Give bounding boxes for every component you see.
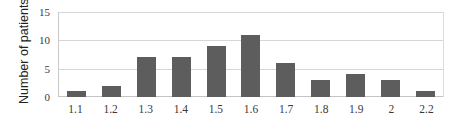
bar[interactable] (137, 57, 156, 97)
y-tick-label: 0 (45, 92, 51, 102)
bar-slot (408, 12, 443, 97)
bar-chart: Number of patients 051015 1.11.21.31.41.… (0, 0, 451, 133)
bar-slot (373, 12, 408, 97)
plot-area (58, 12, 444, 97)
bar[interactable] (416, 91, 435, 97)
bar[interactable] (381, 80, 400, 97)
y-tick-label: 15 (39, 7, 50, 17)
bar-slot (268, 12, 303, 97)
bar[interactable] (102, 86, 121, 97)
bar[interactable] (311, 80, 330, 97)
x-tick-label: 2 (374, 100, 409, 120)
bar-slot (164, 12, 199, 97)
x-tick-label: 1.1 (58, 100, 93, 120)
bar[interactable] (241, 35, 260, 97)
x-tick-label: 1.6 (233, 100, 268, 120)
bar[interactable] (276, 63, 295, 97)
y-axis-tick-labels: 051015 (28, 12, 54, 97)
x-tick-label: 1.8 (304, 100, 339, 120)
bar-slot (338, 12, 373, 97)
bar-slot (59, 12, 94, 97)
x-tick-label: 1.5 (198, 100, 233, 120)
x-tick-label: 1.2 (93, 100, 128, 120)
bar-slot (234, 12, 269, 97)
x-tick-label: 1.4 (163, 100, 198, 120)
bars-container (59, 12, 443, 97)
x-axis-tick-labels: 1.11.21.31.41.51.61.71.81.922.2 (58, 100, 444, 120)
bar[interactable] (346, 74, 365, 97)
bar[interactable] (207, 46, 226, 97)
y-tick-label: 10 (39, 35, 50, 45)
bar[interactable] (67, 91, 86, 97)
x-tick-label: 1.3 (128, 100, 163, 120)
bar-slot (129, 12, 164, 97)
y-tick-label: 5 (45, 64, 51, 74)
bar[interactable] (172, 57, 191, 97)
x-tick-label: 2.2 (409, 100, 444, 120)
x-tick-label: 1.9 (339, 100, 374, 120)
bar-slot (303, 12, 338, 97)
bar-slot (199, 12, 234, 97)
bar-slot (94, 12, 129, 97)
x-tick-label: 1.7 (269, 100, 304, 120)
